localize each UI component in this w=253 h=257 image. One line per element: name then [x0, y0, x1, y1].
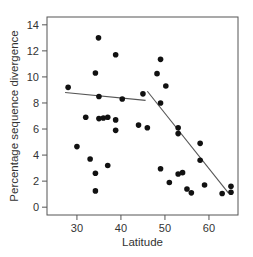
data-point	[96, 35, 102, 41]
x-tick-label: 60	[203, 222, 215, 234]
x-tick-label: 30	[71, 222, 83, 234]
data-point	[158, 100, 164, 106]
data-point	[228, 189, 234, 195]
data-point	[163, 83, 169, 89]
data-point	[136, 122, 142, 128]
fit-line-segment-north	[147, 91, 228, 193]
data-point	[197, 141, 203, 147]
y-tick-label: 6	[33, 123, 39, 135]
fit-line-segment-south	[65, 93, 146, 101]
data-point	[202, 182, 208, 188]
y-axis-label: Percentage sequence divergence	[8, 30, 20, 201]
data-point	[87, 156, 93, 162]
x-axis: 30405060	[71, 215, 215, 234]
data-point	[113, 128, 119, 134]
data-point	[175, 131, 181, 137]
y-tick-label: 0	[33, 201, 39, 213]
data-point	[219, 191, 225, 197]
fit-lines	[65, 91, 228, 193]
x-tick-label: 40	[115, 222, 127, 234]
y-tick-label: 4	[33, 149, 39, 161]
data-point	[184, 186, 190, 192]
y-tick-label: 12	[27, 45, 39, 57]
data-point	[167, 180, 173, 186]
data-point	[140, 91, 146, 97]
x-axis-label: Latitude	[122, 236, 163, 248]
data-point	[158, 57, 164, 63]
data-point	[154, 71, 160, 77]
y-tick-label: 2	[33, 175, 39, 187]
data-point	[65, 85, 71, 91]
data-point	[113, 117, 119, 123]
data-point	[175, 125, 181, 131]
data-point	[113, 52, 119, 58]
data-point	[197, 157, 203, 163]
data-point	[93, 70, 99, 76]
data-point	[158, 166, 164, 172]
x-tick-label: 50	[159, 222, 171, 234]
data-point	[93, 188, 99, 194]
scatter-chart: 02468101214 30405060 Latitude Percentage…	[0, 0, 253, 257]
data-point	[180, 170, 186, 176]
data-point	[189, 190, 195, 196]
data-points	[65, 35, 233, 196]
y-tick-label: 14	[27, 19, 39, 31]
data-point	[96, 94, 102, 100]
data-point	[228, 184, 234, 190]
data-point	[119, 96, 125, 102]
y-tick-label: 10	[27, 71, 39, 83]
data-point	[145, 125, 151, 131]
data-point	[74, 144, 80, 150]
data-point	[105, 163, 111, 169]
data-point	[83, 115, 89, 121]
data-point	[93, 171, 99, 177]
plot-frame	[47, 17, 238, 215]
y-axis: 02468101214	[27, 19, 47, 213]
y-tick-label: 8	[33, 97, 39, 109]
data-point	[105, 115, 111, 121]
